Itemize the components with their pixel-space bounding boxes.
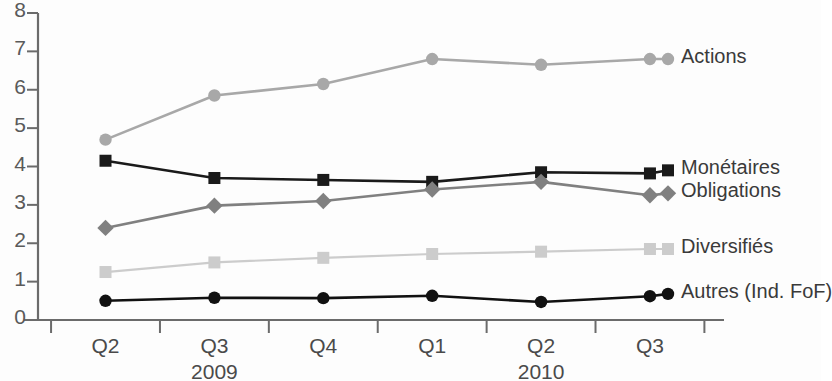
x-axis-year-label: 2009 (174, 360, 254, 381)
data-point-marker-circle (535, 296, 547, 308)
data-point-marker-circle (208, 292, 220, 304)
data-point-marker-square (662, 243, 674, 255)
data-point-marker-square (317, 174, 329, 186)
data-point-marker-diamond (97, 220, 113, 236)
data-point-marker-circle (535, 59, 547, 71)
data-point-marker-circle (426, 53, 438, 65)
data-point-marker-square (317, 252, 329, 264)
x-axis-category-label: Q3 (184, 334, 244, 358)
x-axis-category-label: Q2 (76, 334, 136, 358)
x-axis-category-label: Q2 (511, 334, 571, 358)
series-obligations (97, 174, 676, 236)
legend-label-autres-ind-fof: Autres (Ind. FoF) (681, 280, 832, 303)
data-point-marker-diamond (315, 193, 331, 209)
data-point-marker-circle (426, 290, 438, 302)
series-line (106, 161, 668, 182)
legend-label-actions: Actions (681, 45, 747, 68)
series-actions (99, 53, 674, 146)
y-axis-tick-label: 0 (4, 305, 26, 329)
x-axis-category-label: Q3 (620, 334, 680, 358)
data-point-marker-square (535, 246, 547, 258)
series-diversifi-s (100, 243, 674, 278)
y-axis-tick-label: 1 (4, 267, 26, 291)
data-point-marker-circle (644, 290, 656, 302)
x-axis-category-label: Q4 (293, 334, 353, 358)
legend-label-obligations: Obligations (681, 179, 781, 202)
data-point-marker-diamond (642, 187, 658, 203)
data-point-marker-circle (99, 295, 111, 307)
y-axis-tick-label: 7 (4, 36, 26, 60)
data-point-marker-square (644, 167, 656, 179)
data-point-marker-square (662, 164, 674, 176)
series-line (106, 249, 668, 272)
data-point-marker-circle (99, 133, 111, 145)
data-point-marker-square (208, 172, 220, 184)
data-point-marker-circle (644, 53, 656, 65)
series-line (106, 59, 668, 140)
x-axis-category-label: Q1 (402, 334, 462, 358)
series-line (106, 182, 668, 228)
series-mon-taires (100, 155, 674, 188)
y-axis-tick-label: 2 (4, 228, 26, 252)
y-axis-tick-label: 4 (4, 152, 26, 176)
data-point-marker-square (644, 243, 656, 255)
y-axis-tick-label: 3 (4, 190, 26, 214)
data-point-marker-circle (317, 292, 329, 304)
data-point-marker-circle (662, 288, 674, 300)
series-autres-ind-fof (99, 288, 674, 308)
y-axis-tick-label: 6 (4, 75, 26, 99)
data-point-marker-circle (208, 89, 220, 101)
data-point-marker-diamond (206, 197, 222, 213)
data-point-marker-circle (662, 53, 674, 65)
data-point-marker-circle (317, 78, 329, 90)
legend-label-diversifi-s: Diversifiés (681, 235, 773, 258)
data-point-marker-diamond (660, 185, 676, 201)
data-point-marker-square (208, 256, 220, 268)
y-axis-tick-label: 8 (4, 0, 26, 22)
data-point-marker-square (426, 248, 438, 260)
data-point-marker-square (100, 266, 112, 278)
x-axis-year-label: 2010 (501, 360, 581, 381)
series-line (106, 294, 668, 302)
legend-label-mon-taires: Monétaires (681, 156, 780, 179)
y-axis-tick-label: 5 (4, 113, 26, 137)
data-point-marker-square (100, 155, 112, 167)
